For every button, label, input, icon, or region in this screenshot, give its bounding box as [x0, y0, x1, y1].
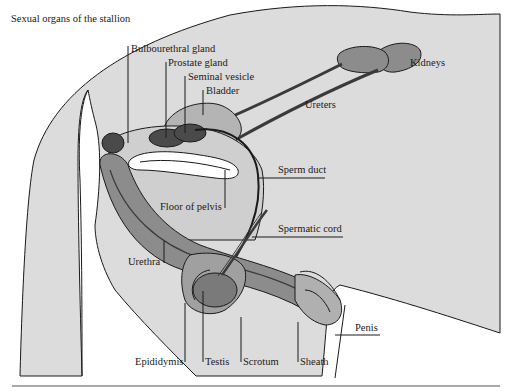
- label-seminal-vesicle: Seminal vesicle: [188, 71, 255, 82]
- label-spermatic-cord: Spermatic cord: [278, 223, 343, 234]
- label-kidneys: Kidneys: [410, 57, 445, 68]
- seminal-vesicle: [174, 124, 206, 142]
- label-testis: Testis: [205, 356, 229, 367]
- diagram-title: Sexual organs of the stallion: [11, 13, 131, 24]
- testis: [193, 273, 237, 307]
- label-bladder: Bladder: [206, 85, 240, 96]
- label-urethra: Urethra: [128, 256, 160, 267]
- label-ureters: Ureters: [305, 99, 336, 110]
- label-prostate-gland: Prostate gland: [168, 57, 229, 68]
- label-epididymis: Epididymis: [135, 356, 183, 367]
- label-floor-of-pelvis: Floor of pelvis: [160, 201, 222, 212]
- label-penis: Penis: [355, 322, 378, 333]
- label-sheath: Sheath: [300, 356, 329, 367]
- kidney-front: [337, 46, 388, 72]
- label-scrotum: Scrotum: [243, 356, 279, 367]
- diagram-stage: Sexual organs of the stallion Bulboureth…: [0, 0, 508, 391]
- bulbourethral-gland: [102, 133, 124, 153]
- stallion-diagram: Sexual organs of the stallion Bulboureth…: [0, 0, 508, 391]
- label-sperm-duct: Sperm duct: [278, 164, 326, 175]
- label-bulbourethral-gland: Bulbourethral gland: [131, 43, 216, 54]
